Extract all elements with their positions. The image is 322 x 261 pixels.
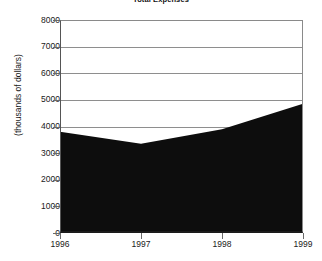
x-tick-mark [303,233,304,239]
chart-container: Total Expenses (thousands of dollars) 80… [0,0,322,261]
x-axis: 1996199719981999 [0,0,322,261]
x-tick-mark [60,233,61,239]
x-tick-mark [141,233,142,239]
x-tick-label: 1999 [273,239,322,249]
x-tick-label: 1998 [192,239,252,249]
x-tick-mark [222,233,223,239]
x-tick-label: 1996 [30,239,90,249]
x-tick-label: 1997 [111,239,171,249]
